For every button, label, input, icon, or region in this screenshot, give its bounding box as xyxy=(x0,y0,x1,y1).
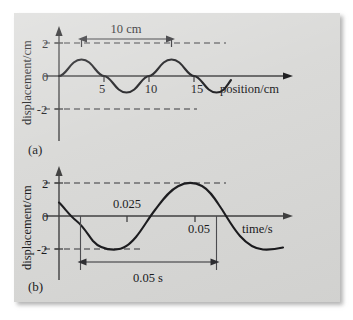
x-tick-label-0025-b: 0.025 xyxy=(113,197,141,211)
y-tick-label-minus2-a: -2 xyxy=(37,103,47,117)
x-axis-arrowhead-a xyxy=(283,72,293,79)
y-axis-arrowhead-b xyxy=(55,166,62,176)
x-axis-label-a: position/cm xyxy=(220,82,279,96)
y-tick-label-2-b: 2 xyxy=(42,177,48,191)
x-axis-label-b: time/s xyxy=(242,222,273,236)
x-tick-label-005-b: 0.05 xyxy=(188,222,210,236)
panel-label-a: (a) xyxy=(28,142,42,157)
y-tick-label-2-a: 2 xyxy=(42,37,48,51)
y-tick-label-0-a: 0 xyxy=(42,70,48,84)
x-tick-label-10-a: 10 xyxy=(145,82,158,96)
dimension-arrowhead-right-a xyxy=(166,36,175,43)
x-tick-label-15-a: 15 xyxy=(191,82,204,96)
dimension-label-a: 10 cm xyxy=(111,22,142,36)
figure-panel: 2 0 -2 5 10 15 10 cm position/cm displac… xyxy=(14,13,340,302)
figure-root: 2 0 -2 5 10 15 10 cm position/cm displac… xyxy=(0,0,353,320)
y-tick-label-0-b: 0 xyxy=(42,210,48,224)
x-tick-label-5-a: 5 xyxy=(99,82,105,96)
y-axis-label-b: displacement/cm xyxy=(20,185,34,270)
dimension-arrowhead-left-a xyxy=(78,36,87,43)
dimension-arrowhead-left-b xyxy=(78,259,87,266)
y-axis-label-a: displacement/cm xyxy=(20,40,34,125)
dimension-arrowhead-right-b xyxy=(211,259,220,266)
graph-a: 2 0 -2 5 10 15 10 cm position/cm displac… xyxy=(14,13,340,158)
panel-label-b: (b) xyxy=(28,279,43,294)
graph-b: 2 0 -2 0.025 0.05 0.05 s time/s displace… xyxy=(14,158,340,302)
x-axis-arrowhead-b xyxy=(283,212,293,219)
y-axis-arrowhead-a xyxy=(55,26,62,36)
y-tick-label-minus2-b: -2 xyxy=(37,243,47,257)
dimension-label-b: 0.05 s xyxy=(133,271,163,285)
